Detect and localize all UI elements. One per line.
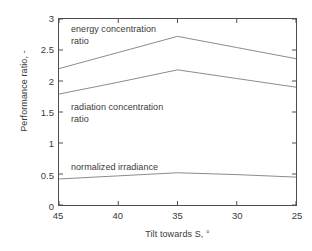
series-line-2 xyxy=(59,70,296,94)
y-tick-label: 1.5 xyxy=(20,107,54,118)
plot-area: energy concentration ratio radiation con… xyxy=(58,18,297,206)
series-annotation-energy-concentration-ratio: energy concentration ratio xyxy=(71,24,156,47)
x-tick-label: 25 xyxy=(277,210,312,221)
y-tick-label: 2 xyxy=(20,75,54,86)
x-axis-title-text: Tilt towards S, xyxy=(145,229,206,239)
x-tick-label: 40 xyxy=(98,210,138,221)
chart-figure: Performance ratio, - 00.511.522.53 energ… xyxy=(0,0,312,251)
y-tick-label: 0.5 xyxy=(20,169,54,180)
series-line-3 xyxy=(59,173,296,179)
degree-symbol-icon: ° xyxy=(206,229,210,239)
series-annotation-radiation-concentration-ratio: radiation concentration ratio xyxy=(71,102,163,125)
y-tick-label: 2.5 xyxy=(20,44,54,55)
y-tick-label: 3 xyxy=(20,13,54,24)
x-tick-label: 35 xyxy=(158,210,198,221)
x-axis-tick-labels: 4540353025 xyxy=(58,210,297,224)
x-tick-label: 30 xyxy=(217,210,257,221)
x-tick-label: 45 xyxy=(38,210,78,221)
x-axis-title: Tilt towards S, ° xyxy=(58,229,297,239)
y-axis-tick-labels: 00.511.522.53 xyxy=(16,18,54,206)
series-annotation-normalized-irradiance: normalized irradiance xyxy=(71,162,158,174)
y-tick-label: 1 xyxy=(20,138,54,149)
